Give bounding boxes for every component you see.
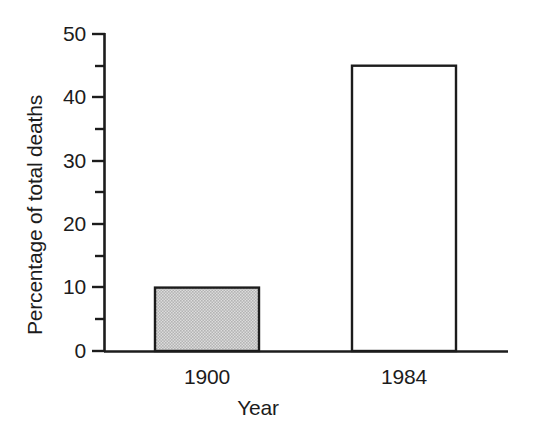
x-tick-label-1900: 1900 [184, 365, 230, 388]
y-tick-label-30: 30 [63, 149, 86, 172]
y-tick-label-40: 40 [63, 85, 86, 108]
y-axis: 50 40 30 20 10 0 [63, 22, 105, 362]
y-tick-label-20: 20 [63, 212, 86, 235]
chart-container: Percentage of total deaths Year [0, 0, 544, 434]
x-axis: 1900 1984 [104, 352, 508, 389]
plot-area: 50 40 30 20 10 0 1900 1984 [0, 0, 544, 434]
bar-1900[interactable] [155, 288, 259, 351]
bars-group [155, 66, 456, 351]
y-tick-label-50: 50 [63, 22, 86, 45]
bar-1984[interactable] [352, 66, 456, 351]
y-tick-label-10: 10 [63, 275, 86, 298]
y-tick-label-0: 0 [75, 339, 86, 362]
x-tick-label-1984: 1984 [381, 365, 427, 388]
